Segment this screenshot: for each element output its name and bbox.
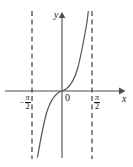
y-axis-label: y [54,10,58,20]
plot-canvas [0,0,133,167]
y-axis [59,12,66,158]
fraction-numerator: π [25,94,31,102]
fraction-denominator: 2 [94,103,100,111]
x-axis-label: x [122,94,126,104]
origin-label: 0 [65,93,70,103]
tick-label-pos-half-pi: π 2 [94,94,100,112]
fraction-neg-half-pi: π 2 [25,94,31,112]
fraction-denominator: 2 [25,103,31,111]
tangent-curve [38,12,89,158]
tangent-function-figure: y x 0 − π 2 π 2 [0,0,133,167]
y-axis-arrowhead [59,12,66,18]
tick-label-neg-half-pi: − π 2 [20,94,31,112]
fraction-pos-half-pi: π 2 [94,94,100,112]
fraction-numerator: π [94,94,100,102]
